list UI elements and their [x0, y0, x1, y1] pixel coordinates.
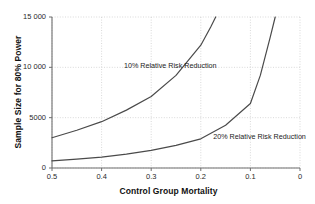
- x-tick-label: 0.2: [189, 172, 213, 181]
- y-axis-title: Sample Size for 80% Power: [13, 22, 23, 162]
- x-tick-label: 0.3: [139, 172, 163, 181]
- x-tick-label: 0.4: [90, 172, 114, 181]
- y-tick-label: 10 000: [2, 62, 46, 71]
- y-tick-label: 5000: [2, 113, 46, 122]
- y-tick-label: 15 000: [2, 12, 46, 21]
- x-tick-label: 0.1: [238, 172, 262, 181]
- y-tick-label: 0: [2, 163, 46, 172]
- x-tick-label: 0: [288, 172, 312, 181]
- x-tick-label: 0.5: [40, 172, 64, 181]
- series-annotation: 20% Relative Risk Reduction: [213, 132, 306, 141]
- series-annotation: 10% Relative Risk Reduction: [124, 61, 217, 70]
- x-axis-title: Control Group Mortality: [0, 186, 315, 196]
- series-line: [52, 17, 216, 138]
- chart-figure: Control Group Mortality Sample Size for …: [0, 0, 315, 204]
